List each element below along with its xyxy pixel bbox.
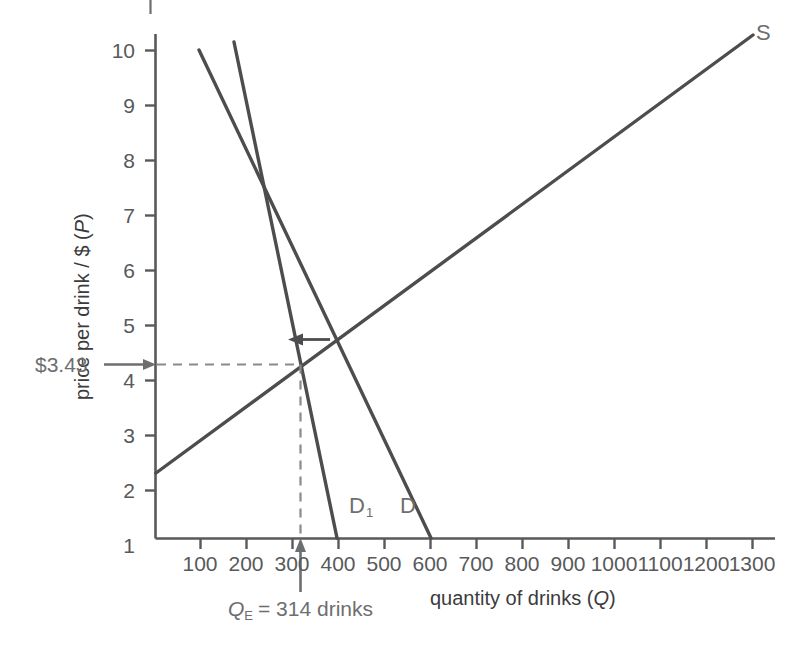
y-tick-label-2: 2 <box>95 480 135 501</box>
y-axis-title-var: P <box>71 220 93 233</box>
demand-shifted-subscript: 1 <box>366 505 373 520</box>
x-tick-marks <box>201 539 753 550</box>
equilibrium-quantity-var: Q <box>228 597 244 620</box>
x-tick-label-1300: 1300 <box>722 553 782 574</box>
demand-shifted-base: D <box>349 493 365 518</box>
demand-curve-label: D <box>400 495 416 517</box>
supply-curve-label: S <box>756 22 771 44</box>
y-tick-label-4: 4 <box>95 370 135 391</box>
y-tick-label-9: 9 <box>95 95 135 116</box>
equilibrium-price-label: $3.43 <box>35 354 88 375</box>
x-axis-title-suffix: ) <box>609 587 616 609</box>
x-axis-title-text: quantity of drinks ( <box>430 587 593 609</box>
y-tick-marks <box>145 51 156 491</box>
y-tick-label-3: 3 <box>95 425 135 446</box>
y-tick-label-8: 8 <box>95 150 135 171</box>
y-tick-label-6: 6 <box>95 260 135 281</box>
y-tick-label-5: 5 <box>95 315 135 336</box>
y-tick-label-7: 7 <box>95 205 135 226</box>
supply-demand-chart: 10 9 8 7 6 5 4 3 2 1 100 200 300 400 500… <box>0 0 811 651</box>
y-axis-title-suffix: ) <box>71 213 93 220</box>
x-axis-title: quantity of drinks (Q) <box>430 588 616 608</box>
equilibrium-quantity-value: = 314 drinks <box>258 597 373 620</box>
demand-curve <box>199 50 431 538</box>
x-axis-title-var: Q <box>593 587 609 609</box>
equilibrium-quantity-subscript: E <box>244 608 253 623</box>
demand-shifted-curve-label: D1 <box>349 495 372 517</box>
demand-curve-shifted <box>234 42 337 538</box>
y-tick-label-10: 10 <box>95 40 135 61</box>
y-tick-label-1: 1 <box>95 535 135 556</box>
equilibrium-quantity-label: QE= 314 drinks <box>228 598 373 619</box>
